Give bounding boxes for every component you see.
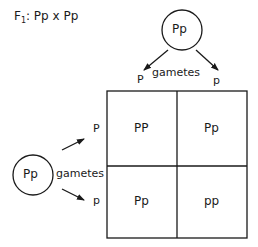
left-gamete-2: p	[93, 194, 100, 207]
punnett-cell-2-1: Pp	[134, 194, 149, 208]
left-parent-genotype: Pp	[23, 167, 38, 181]
top-gamete-1: P	[137, 73, 144, 86]
left-gamete-1: P	[93, 122, 100, 135]
punnett-diagram	[0, 0, 258, 247]
punnett-cell-1-1: PP	[134, 121, 148, 135]
top-parent-genotype: Pp	[172, 22, 187, 36]
top-gamete-2: p	[213, 74, 220, 87]
left-arrow-down-icon	[62, 189, 84, 200]
left-gametes-label: gametes	[56, 167, 104, 180]
punnett-cell-2-2: pp	[204, 194, 219, 208]
top-gametes-label: gametes	[152, 66, 200, 79]
punnett-cell-1-2: Pp	[204, 121, 219, 135]
left-arrow-up-icon	[62, 139, 84, 150]
